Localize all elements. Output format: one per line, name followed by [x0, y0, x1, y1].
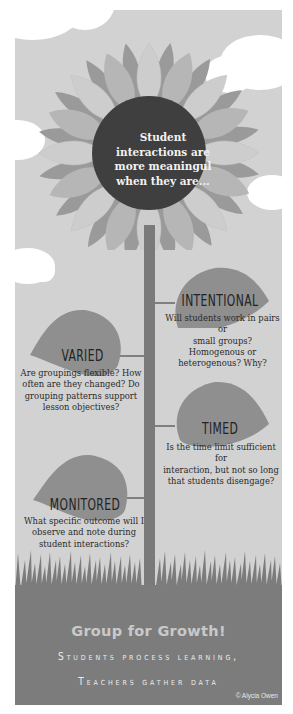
leaf-text-varied: Are groupings flexible? How often are th…: [17, 368, 145, 413]
leaf-title-intentional: INTENTIONAL: [176, 292, 264, 310]
leaf-text-monitored: What specific outcome will I observe and…: [20, 516, 148, 550]
footer-title: Group for Growth!: [15, 623, 282, 639]
leaf-varied-shape: [30, 310, 121, 376]
footer-subtitle-line2: Teachers gather data: [28, 676, 268, 687]
leaf-text-intentional: Will students work in pairs or small gro…: [165, 313, 280, 369]
leaf-title-varied: VARIED: [45, 347, 121, 365]
leaf-title-monitored: MONITORED: [41, 496, 129, 514]
footer-subtitle-line1: Students process learning,: [28, 651, 268, 662]
leaf-text-timed: Is the time limit sufficient for interac…: [161, 442, 281, 487]
infographic-poster: Student interactions are more meaningul …: [15, 10, 282, 705]
copyright-credit: © Alycia Owen: [236, 692, 278, 699]
leaf-title-timed: TIMED: [184, 420, 256, 438]
footer-banner: [15, 585, 282, 705]
